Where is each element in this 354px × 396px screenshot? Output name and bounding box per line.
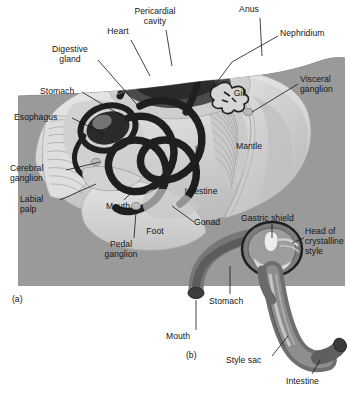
label-cerebral-ganglion: Cerebral ganglion (10, 163, 43, 183)
label-stomach: Stomach (40, 86, 74, 96)
leader-heart (131, 40, 150, 76)
label-intestine: Intestine (178, 186, 224, 196)
label-style-sac: Style sac (226, 355, 261, 365)
label-mantle: Mantle (228, 141, 270, 151)
label-pericardial-cavity: Pericardial cavity (130, 6, 180, 26)
label-mouth-b: Mouth (166, 331, 190, 341)
label-nephridium: Nephridium (280, 28, 324, 38)
mouth-opening-b (188, 288, 204, 299)
gastric-shield-b (264, 231, 278, 251)
label-labial-palp: Labial palp (20, 194, 43, 214)
label-pedal-ganglion: Pedal ganglion (98, 239, 144, 259)
label-digestive-gland: Digestive gland (44, 44, 96, 64)
pedal-ganglion-node (132, 203, 141, 210)
label-foot: Foot (138, 226, 172, 236)
label-gastric-shield: Gastric shield (241, 213, 294, 223)
visceral-ganglion-node (243, 109, 253, 116)
leader-pericardial-cavity (166, 30, 172, 66)
label-stomach-b: Stomach (209, 296, 243, 306)
bivalve-anatomy-figure: Pericardial cavity Anus Heart Nephridium… (0, 0, 354, 396)
label-esophagus: Esophagus (14, 112, 57, 122)
anus-lumen (260, 61, 264, 65)
panel-tag-a: (a) (12, 294, 23, 304)
leader-anus (260, 18, 262, 56)
label-head-of-crystalline-style: Head of crystalline style (305, 226, 344, 256)
panel-tag-b: (b) (186, 350, 197, 360)
label-gonad: Gonad (194, 217, 220, 227)
label-visceral-ganglion: Visceral ganglion (300, 74, 333, 94)
label-heart: Heart (97, 26, 139, 36)
label-intestine-b: Intestine (286, 376, 319, 386)
anus-opening (257, 58, 267, 68)
label-mouth: Mouth (106, 201, 130, 211)
label-anus: Anus (228, 4, 270, 14)
label-gill: Gill (226, 88, 254, 98)
